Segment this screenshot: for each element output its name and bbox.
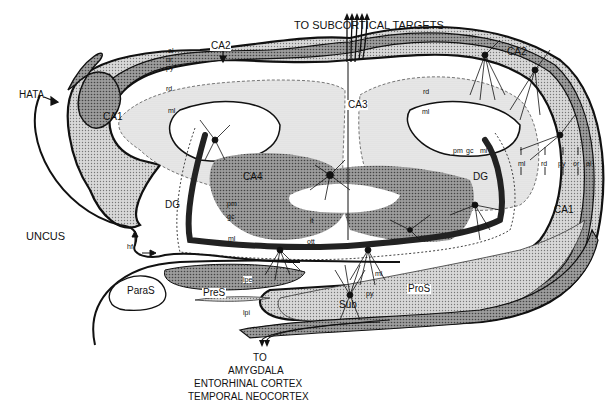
hippocampus-diagram: TO SUBCORTICAL TARGETS HATA CA1 CA2 CA3 … xyxy=(0,0,609,413)
layer-ml-dg-left: ml xyxy=(228,235,235,242)
layer-pm: pm xyxy=(227,200,237,207)
layer-or: or xyxy=(166,56,172,63)
label-ca2-right: CA2 xyxy=(507,47,526,57)
caption-to: TO xyxy=(253,353,267,363)
layer-ml-dg-right: ml xyxy=(480,147,487,154)
layer-gc-right: gc xyxy=(466,147,473,154)
layer-lpi: lpi xyxy=(243,309,250,316)
hata-arrow xyxy=(44,97,58,105)
layer-ml-upper-right: ml xyxy=(422,108,429,115)
layer-py-right: py xyxy=(558,160,565,167)
layer-ott: ott xyxy=(307,238,315,245)
amygdala-arrowheads xyxy=(259,340,270,347)
layer-rd: rd xyxy=(166,85,172,92)
layer-lpe: lpe xyxy=(243,276,252,283)
layer-hf: hf xyxy=(127,243,133,250)
layer-rd-right: rd xyxy=(541,160,547,167)
pres-lpe-layer xyxy=(164,264,305,290)
subcortical-targets-label: TO SUBCORTICAL TARGETS xyxy=(294,20,444,31)
label-ca4: CA4 xyxy=(243,172,262,182)
label-dg-left: DG xyxy=(165,200,180,210)
layer-al: al xyxy=(168,47,173,54)
label-paras: ParaS xyxy=(127,286,155,296)
layer-ml: ml xyxy=(168,107,175,114)
layer-ml-right: ml xyxy=(518,160,525,167)
caption-amygdala: AMYGDALA xyxy=(228,366,284,376)
label-ca1-left: CA1 xyxy=(103,112,122,122)
label-ca2: CA2 xyxy=(210,41,231,51)
label-pres: PreS xyxy=(202,288,226,298)
inner-white-loop-left xyxy=(170,102,280,162)
layer-rd-upper-right: rd xyxy=(423,88,429,95)
layer-al-right: al xyxy=(586,160,591,167)
label-ca3: CA3 xyxy=(347,100,368,110)
layer-ml-sub: ml xyxy=(375,270,382,277)
layer-py-sub: py xyxy=(366,290,373,297)
label-hata: HATA xyxy=(19,90,44,100)
caption-temporal-neocortex: TEMPORAL NEOCORTEX xyxy=(188,392,309,402)
label-ca1-right: CA1 xyxy=(554,205,573,215)
diagram-drawing xyxy=(0,0,609,413)
label-dg-right: DG xyxy=(473,172,488,182)
label-pros: ProS xyxy=(407,284,431,294)
layer-gc: gc xyxy=(227,213,234,220)
caption-entorhinal: ENTORHINAL CORTEX xyxy=(194,379,302,389)
layer-pm-right: pm xyxy=(453,147,463,154)
layer-py: py xyxy=(166,64,173,71)
label-sub: Sub xyxy=(339,300,357,310)
layer-or-right: or xyxy=(573,160,579,167)
label-uncus: UNCUS xyxy=(26,231,65,242)
layer-it: it xyxy=(310,217,314,224)
